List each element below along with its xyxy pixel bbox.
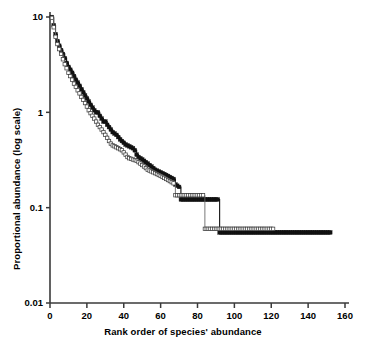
- x-tick-label: 0: [47, 310, 52, 321]
- y-tick-label: 10: [32, 11, 43, 22]
- open-square-marker: [50, 16, 53, 19]
- filled-square-marker: [78, 84, 82, 88]
- open-square-marker: [52, 26, 55, 29]
- y-tick-label: 0.01: [25, 297, 44, 308]
- filled-square-marker: [177, 185, 181, 189]
- x-tick-label: 20: [82, 310, 93, 321]
- open-square-marker: [74, 85, 77, 88]
- rank-abundance-figure: 1010.10.01020406080100120140160 Rank ord…: [0, 0, 366, 346]
- y-axis-title: Proportional abundance (log scale): [11, 108, 22, 270]
- filled-square-marker: [133, 148, 137, 152]
- x-tick-label: 120: [263, 310, 279, 321]
- open-square-marker: [271, 227, 274, 230]
- x-tick-label: 160: [337, 310, 353, 321]
- filled-square-marker: [96, 110, 100, 114]
- filled-square-marker: [328, 231, 332, 235]
- x-tick-label: 100: [226, 310, 242, 321]
- open-square-marker: [59, 52, 62, 55]
- tick-label-layer: 1010.10.01020406080100120140160: [25, 11, 353, 321]
- x-tick-label: 60: [155, 310, 166, 321]
- open-squares-series: [50, 16, 275, 230]
- open-squares-series-step-line: [52, 18, 273, 229]
- x-tick-label: 40: [118, 310, 129, 321]
- open-square-marker: [78, 92, 81, 95]
- y-tick-label: 0.1: [30, 202, 44, 213]
- filled-square-marker: [72, 74, 76, 78]
- open-square-marker: [69, 74, 72, 77]
- x-tick-label: 140: [300, 310, 316, 321]
- open-square-marker: [54, 35, 57, 38]
- filled-squares-series: [50, 15, 332, 234]
- y-tick-label: 1: [38, 107, 44, 118]
- open-square-marker: [172, 182, 175, 185]
- open-square-marker: [56, 42, 59, 45]
- x-tick-label: 80: [192, 310, 203, 321]
- rank-abundance-chart: 1010.10.01020406080100120140160: [0, 0, 366, 346]
- open-square-marker: [61, 58, 64, 61]
- open-square-marker: [83, 101, 86, 104]
- open-square-marker: [67, 71, 70, 74]
- open-square-marker: [85, 105, 88, 108]
- open-square-marker: [201, 194, 204, 197]
- open-square-marker: [58, 47, 61, 50]
- axis-layer: [46, 12, 349, 308]
- open-square-marker: [70, 78, 73, 81]
- filled-square-marker: [216, 198, 220, 202]
- series-layer: [50, 15, 332, 234]
- open-square-marker: [65, 67, 68, 70]
- open-square-marker: [63, 62, 66, 65]
- x-axis-title: Rank order of species' abundance: [0, 326, 366, 337]
